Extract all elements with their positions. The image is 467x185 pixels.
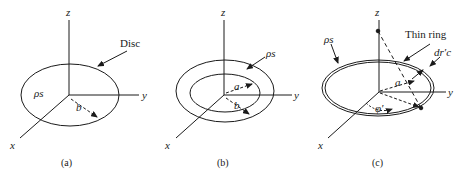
inner-radius-label: a [234,80,240,92]
y-axis-label: y [293,89,299,101]
y-axis-label: y [141,89,147,101]
angle-label: φ′ [375,102,384,114]
density-label: ρs [265,47,276,59]
x-axis [20,95,69,138]
radius-label: b [76,101,82,113]
thin-ring-callout-arrow [404,44,430,61]
disc-callout-arrow [98,51,127,66]
x-axis [176,95,224,138]
x-axis [328,92,379,138]
panel-b [176,20,292,138]
width-arrow-outer [430,57,440,66]
width-arrow-inner [412,70,423,79]
panel-caption: (a) [61,157,72,169]
z-axis-label: z [220,6,226,18]
outer-ring-outline [176,60,274,122]
panel-a-labels: z y x Disc ρs b (a) [9,6,147,169]
radius-b-arrow [71,99,97,117]
panel-c-labels: z y x Thin ring ρs dr′c a φ′ (c) [317,6,453,169]
figure-canvas: z y x Disc ρs b (a) z y x ρs a b (b) [0,0,467,185]
thin-ring-callout-label: Thin ring [405,28,447,40]
inner-ring-outline [190,74,260,112]
outer-radius-label: b [234,99,240,111]
x-axis-label: x [164,139,170,151]
panel-caption: (b) [217,157,229,169]
density-callout-arrow [331,44,338,63]
z-axis-label: z [65,6,71,18]
density-label: ρs [33,87,44,99]
radius-label: a [395,76,401,88]
x-axis-label: x [317,139,323,151]
width-label: dr′c [434,46,451,58]
disc-callout-label: Disc [120,37,140,49]
source-vector [380,93,419,107]
panel-b-labels: z y x ρs a b (b) [164,6,299,169]
panel-caption: (c) [372,157,383,169]
density-label: ρs [323,33,334,45]
x-axis-label: x [9,139,15,151]
z-axis-label: z [374,6,380,18]
y-axis-label: y [447,86,453,98]
